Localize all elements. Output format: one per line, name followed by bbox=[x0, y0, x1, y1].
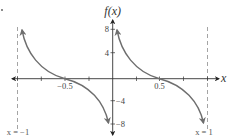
x-tick-label-neg-half: −0.5 bbox=[57, 81, 72, 91]
y-axis-title: f(x) bbox=[104, 4, 121, 18]
x-axis-title: x bbox=[220, 71, 227, 85]
y-tick-label-neg4: −4 bbox=[116, 96, 126, 106]
y-tick-label-4: 4 bbox=[105, 48, 110, 58]
curve-right-branch bbox=[117, 30, 204, 123]
asymptote-right-label: x = 1 bbox=[195, 127, 213, 137]
stray-mark bbox=[1, 9, 3, 11]
asymptote-left-label: x = −1 bbox=[7, 127, 29, 137]
y-tick-label-neg8: −8 bbox=[116, 119, 125, 129]
y-tick-label-8: 8 bbox=[105, 24, 109, 34]
function-graph: −0.5 0.5 8 4 −4 −8 f(x) x x = −1 x = 1 bbox=[0, 0, 228, 140]
x-tick-label-pos-half: 0.5 bbox=[154, 81, 165, 91]
